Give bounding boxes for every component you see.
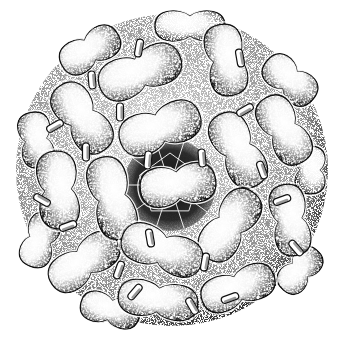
surface-spike [88,71,97,90]
surface-spike [198,149,207,168]
capsid-illustration [0,0,343,341]
virus-capsid-drawing [0,0,343,341]
surface-spike [117,103,124,121]
surface-spike [83,143,90,161]
surface-spike [144,151,153,170]
